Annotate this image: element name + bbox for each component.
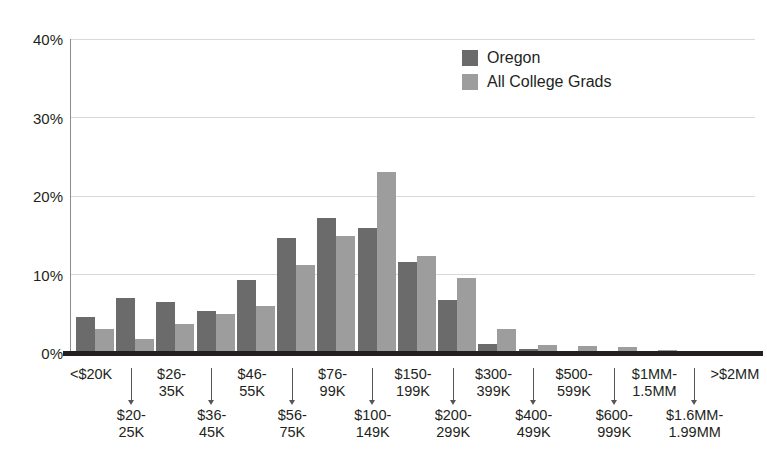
x-axis-label-line: 75K [256, 424, 328, 441]
x-axis-labels: <$20K$20-25K$26-35K$36-45K$46-55K$56-75K… [0, 362, 767, 449]
x-axis-label-line: $1.6MM- [659, 407, 731, 424]
x-axis-label: $200-299K [417, 407, 489, 441]
x-axis-label-line: 499K [498, 424, 570, 441]
legend: Oregon All College Grads [462, 46, 612, 94]
x-axis-label-line: $150- [377, 366, 449, 383]
x-axis-label-line: $200- [417, 407, 489, 424]
gridline-30 [71, 117, 755, 118]
x-axis-label: $46-55K [216, 366, 288, 400]
y-tick-20: 20% [33, 189, 63, 204]
x-axis-label-line: $20- [95, 407, 167, 424]
x-axis-label-line: $76- [297, 366, 369, 383]
legend-label: Oregon [487, 50, 540, 66]
x-axis-label-line: 1.99MM [659, 424, 731, 441]
x-axis-label-line: >$2MM [699, 366, 767, 383]
bar [76, 317, 95, 353]
x-axis-label: <$20K [55, 366, 127, 383]
x-axis-label: $300-399K [457, 366, 529, 400]
gridline-40 [71, 39, 755, 40]
bar [358, 228, 377, 353]
x-axis-label: $600-999K [578, 407, 650, 441]
x-axis-label: $400-499K [498, 407, 570, 441]
x-axis-label-line: 199K [377, 383, 449, 400]
x-axis-label-line: $600- [578, 407, 650, 424]
bar [216, 314, 235, 353]
x-axis-label-line: $500- [538, 366, 610, 383]
x-axis-label: $20-25K [95, 407, 167, 441]
bar [237, 280, 256, 353]
x-axis-label-line: 149K [337, 424, 409, 441]
bar [277, 238, 296, 353]
y-tick-0: 0% [41, 346, 63, 361]
x-axis-label-line: $400- [498, 407, 570, 424]
legend-swatch-icon [462, 74, 478, 90]
bar [398, 262, 417, 353]
legend-item-all-college-grads: All College Grads [462, 70, 612, 94]
x-axis-label-line: $300- [457, 366, 529, 383]
x-axis-label-line: $46- [216, 366, 288, 383]
x-axis-label-line: 399K [457, 383, 529, 400]
x-axis-label: $56-75K [256, 407, 328, 441]
x-axis-label-line: 35K [136, 383, 208, 400]
plot-area [71, 39, 755, 353]
bar [377, 172, 396, 353]
legend-item-oregon: Oregon [462, 46, 612, 70]
x-axis-label: $1.6MM-1.99MM [659, 407, 731, 441]
x-axis-baseline [63, 351, 763, 356]
bar [197, 311, 216, 353]
bar [175, 324, 194, 353]
x-axis-label-line: 599K [538, 383, 610, 400]
bar [417, 256, 436, 353]
x-axis-label-line: <$20K [55, 366, 127, 383]
x-axis-label-line: $26- [136, 366, 208, 383]
y-tick-40: 40% [33, 32, 63, 47]
bar-chart: 40% 30% 20% 10% 0% Oregon All College Gr… [0, 0, 767, 449]
bar [296, 265, 315, 353]
x-axis-label-line: 99K [297, 383, 369, 400]
legend-label: All College Grads [487, 74, 612, 90]
gridline-20 [71, 196, 755, 197]
bar [116, 298, 135, 353]
bar [497, 329, 516, 353]
x-axis-label: $26-35K [136, 366, 208, 400]
bar [336, 236, 355, 353]
x-axis-label-line: $56- [256, 407, 328, 424]
bar [438, 300, 457, 353]
x-axis-label-line: 1.5MM [618, 383, 690, 400]
bar [457, 278, 476, 353]
x-axis-label-line: $100- [337, 407, 409, 424]
bar [256, 306, 275, 353]
x-axis-label-line: 999K [578, 424, 650, 441]
bar [317, 218, 336, 353]
x-axis-label-line: $36- [176, 407, 248, 424]
legend-swatch-icon [462, 50, 478, 66]
x-axis-label: $100-149K [337, 407, 409, 441]
y-tick-10: 10% [33, 268, 63, 283]
x-axis-label: $36-45K [176, 407, 248, 441]
x-axis-label-line: 299K [417, 424, 489, 441]
bar [95, 329, 114, 353]
bar [156, 302, 175, 353]
x-axis-label: $1MM-1.5MM [618, 366, 690, 400]
x-axis-label: $500-599K [538, 366, 610, 400]
y-tick-30: 30% [33, 111, 63, 126]
x-axis-label: $150-199K [377, 366, 449, 400]
x-axis-label: $76-99K [297, 366, 369, 400]
x-axis-label-line: 55K [216, 383, 288, 400]
x-axis-label-line: 25K [95, 424, 167, 441]
x-axis-label: >$2MM [699, 366, 767, 383]
x-axis-label-line: $1MM- [618, 366, 690, 383]
x-axis-label-line: 45K [176, 424, 248, 441]
